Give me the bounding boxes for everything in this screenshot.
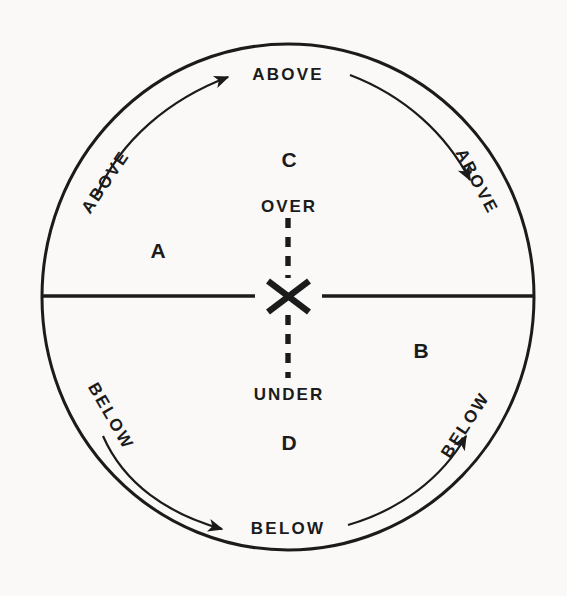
ring-label-top-center: ABOVE — [252, 65, 323, 84]
figure-root: ABOVE ABOVE ABOVE BELOW BELOW BELOW C OV… — [0, 0, 567, 596]
vertical-label-over: OVER — [261, 197, 317, 216]
quadrant-label-b: B — [413, 339, 428, 362]
diagram-canvas: ABOVE ABOVE ABOVE BELOW BELOW BELOW C OV… — [0, 0, 567, 596]
quadrant-label-d: D — [281, 431, 296, 454]
ring-label-upper-left: ABOVE — [78, 147, 134, 217]
ring-label-upper-right: ABOVE — [452, 145, 502, 217]
vertical-label-under: UNDER — [254, 385, 324, 404]
quadrant-label-c: C — [281, 148, 296, 171]
arrow-top-to-upper-right — [350, 75, 470, 180]
center-x-marker — [268, 281, 309, 312]
quadrant-label-a: A — [150, 239, 165, 262]
ring-label-lower-left: BELOW — [84, 379, 138, 453]
ring-label-bottom-center: BELOW — [251, 519, 325, 538]
